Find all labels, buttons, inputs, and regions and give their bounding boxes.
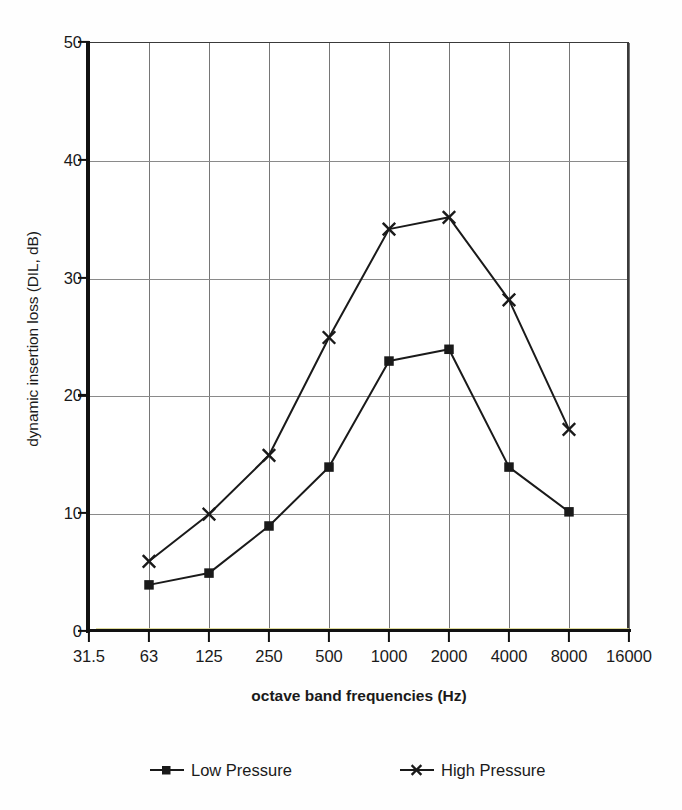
data-point-marker bbox=[324, 462, 334, 472]
square-marker-icon bbox=[150, 761, 184, 779]
plot-area bbox=[89, 42, 629, 631]
x-axis-highlight bbox=[96, 628, 629, 629]
data-point-marker bbox=[564, 424, 575, 435]
x-axis-tick-mark bbox=[508, 631, 510, 642]
y-axis-tick-label: 30 bbox=[38, 268, 82, 287]
chart-figure: dynamic insertion loss (DIL, dB) 0102030… bbox=[0, 0, 682, 810]
x-axis-tick-mark bbox=[208, 631, 210, 642]
legend-label-low-pressure: Low Pressure bbox=[191, 761, 292, 780]
x-axis-tick-mark bbox=[268, 631, 270, 642]
x-axis-line bbox=[86, 629, 631, 632]
y-axis-tick-label: 10 bbox=[38, 504, 82, 523]
data-point-marker bbox=[144, 580, 154, 590]
y-axis-tick-mark bbox=[78, 277, 89, 279]
data-point-marker bbox=[504, 294, 515, 305]
legend-label-high-pressure: High Pressure bbox=[441, 761, 546, 780]
data-point-marker bbox=[444, 345, 454, 355]
x-axis-tick-mark bbox=[628, 631, 630, 642]
x-axis-tick-mark bbox=[88, 631, 90, 642]
data-point-marker bbox=[564, 507, 574, 516]
data-point-marker bbox=[384, 356, 394, 366]
x-marker-icon bbox=[400, 761, 434, 779]
data-point-marker bbox=[264, 521, 274, 531]
data-point-marker bbox=[504, 462, 514, 472]
data-point-marker bbox=[144, 556, 155, 567]
data-point-marker bbox=[204, 509, 215, 520]
y-axis-tick-mark bbox=[78, 512, 89, 514]
y-axis-tick-label: 0 bbox=[38, 622, 82, 641]
y-axis-tick-labels: 01020304050 bbox=[30, 0, 82, 810]
data-point-marker bbox=[264, 450, 275, 461]
y-axis-line bbox=[86, 41, 90, 633]
gridline-vertical bbox=[629, 43, 630, 631]
legend-item-low-pressure: Low Pressure bbox=[150, 757, 292, 783]
data-series-layer bbox=[89, 43, 629, 632]
x-axis-tick-mark bbox=[328, 631, 330, 642]
x-axis-tick-mark bbox=[448, 631, 450, 642]
x-axis-tick-mark bbox=[148, 631, 150, 642]
y-axis-tick-mark bbox=[78, 394, 89, 396]
x-axis-tick-mark bbox=[568, 631, 570, 642]
data-point-marker bbox=[204, 568, 214, 578]
y-axis-tick-label: 40 bbox=[38, 150, 82, 169]
y-axis-tick-mark bbox=[78, 159, 89, 161]
data-point-marker bbox=[324, 332, 335, 343]
y-axis-tick-label: 50 bbox=[38, 33, 82, 52]
y-axis-tick-mark bbox=[78, 41, 89, 43]
x-axis-title: octave band frequencies (Hz) bbox=[89, 687, 629, 705]
x-axis-tick-label: 16000 bbox=[584, 647, 674, 666]
x-axis-tick-mark bbox=[388, 631, 390, 642]
y-axis-tick-label: 20 bbox=[38, 386, 82, 405]
chart-legend: Low Pressure High Pressure bbox=[89, 757, 629, 787]
legend-item-high-pressure: High Pressure bbox=[400, 757, 546, 783]
